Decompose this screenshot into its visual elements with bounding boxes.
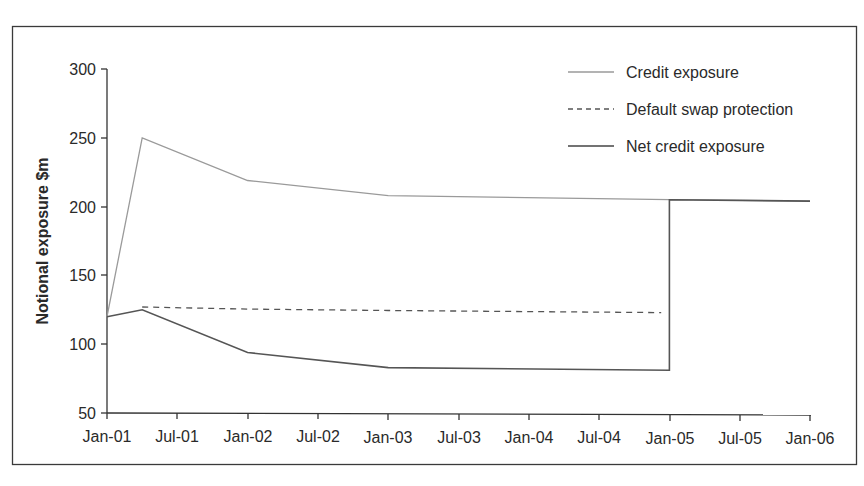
svg-text:Net credit exposure: Net credit exposure (626, 138, 765, 155)
legend-item-credit-exposure: Credit exposure (568, 64, 739, 81)
y-axis: 300 250 200 150 100 50 Notional exposure… (34, 61, 107, 422)
y-tick-label: 50 (78, 405, 96, 422)
chart-frame (13, 27, 857, 465)
y-tick-label: 200 (69, 199, 96, 216)
y-tick-label: 150 (69, 267, 96, 284)
x-tick-label: Jan-05 (646, 430, 695, 447)
y-axis-title: Notional exposure $m (34, 157, 51, 324)
series-line-net-credit-exposure (107, 200, 810, 371)
y-tick-label: 250 (69, 130, 96, 147)
series-line-credit-exposure (107, 138, 810, 317)
x-tick-label: Jan-02 (224, 428, 273, 445)
x-tick-label: Jan-06 (786, 430, 835, 447)
legend-item-default-swap-protection: Default swap protection (568, 101, 793, 118)
x-tick-label: Jan-01 (83, 428, 132, 445)
x-tick-label: Jan-03 (364, 429, 413, 446)
series-line-default-swap-protection (142, 307, 661, 313)
x-tick-label: Jul-05 (718, 430, 762, 447)
x-tick-label: Jul-01 (155, 428, 199, 445)
legend-item-net-credit-exposure: Net credit exposure (568, 138, 765, 155)
x-tick-label: Jul-03 (437, 429, 481, 446)
svg-text:Default swap protection: Default swap protection (626, 101, 793, 118)
legend: Credit exposure Default swap protection … (568, 64, 793, 155)
x-axis: Jan-01 Jul-01 Jan-02 Jul-02 Jan-03 Jul-0… (83, 413, 835, 447)
x-tick-label: Jul-02 (296, 428, 340, 445)
chart: 300 250 200 150 100 50 Notional exposure… (0, 0, 864, 486)
svg-text:Credit exposure: Credit exposure (626, 64, 739, 81)
y-tick-label: 100 (69, 336, 96, 353)
x-tick-label: Jul-04 (577, 429, 621, 446)
y-tick-label: 300 (69, 61, 96, 78)
x-tick-label: Jan-04 (505, 429, 554, 446)
series-layer (107, 138, 810, 370)
